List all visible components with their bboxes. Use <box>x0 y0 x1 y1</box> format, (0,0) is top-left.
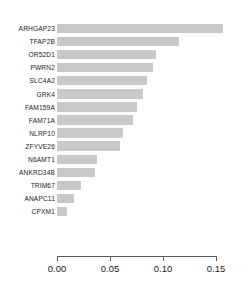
bar-row: FAM71A <box>0 114 241 127</box>
bar-category-label: ARHGAP23 <box>19 22 55 35</box>
bar-value-rect <box>57 63 153 73</box>
bar-value-rect <box>57 128 123 138</box>
bar-value-rect <box>57 50 156 60</box>
bar-row: GRK4 <box>0 88 241 101</box>
bar-category-label: GRK4 <box>36 88 55 101</box>
bar-category-label: TFAP2B <box>30 35 55 48</box>
plot-area: ARHGAP23 TFAP2B OR52D1 PWRN2 SLC4A2 GRK4… <box>0 0 241 252</box>
bar-category-label: FAM159A <box>25 101 55 114</box>
bar-value-rect <box>57 76 147 86</box>
bar-value-rect <box>57 168 95 178</box>
x-tick-mark <box>57 256 58 261</box>
x-tick-mark <box>110 256 111 261</box>
bar-category-label: ANAPC11 <box>24 192 55 205</box>
bar-row: TRIM67 <box>0 179 241 192</box>
bar-row: PWRN2 <box>0 61 241 74</box>
x-tick-mark <box>216 256 217 261</box>
bar-row: ZFYVE26 <box>0 140 241 153</box>
bar-category-label: ZFYVE26 <box>25 140 55 153</box>
bar-chart: ARHGAP23 TFAP2B OR52D1 PWRN2 SLC4A2 GRK4… <box>0 0 241 293</box>
bar-category-label: NLRP10 <box>29 127 55 140</box>
bar-value-rect <box>57 141 120 151</box>
bar-row: ANKRD34B <box>0 166 241 179</box>
bar-row: ARHGAP23 <box>0 22 241 35</box>
bar-row: NLRP10 <box>0 127 241 140</box>
bar-row: SLC4A2 <box>0 74 241 87</box>
bar-category-label: FAM71A <box>29 114 55 127</box>
bar-value-rect <box>57 181 81 191</box>
x-tick-label: 0.00 <box>48 263 67 274</box>
x-tick-mark <box>163 256 164 261</box>
bar-value-rect <box>57 115 133 125</box>
bar-category-label: SLC4A2 <box>30 74 55 87</box>
bar-value-rect <box>57 207 67 217</box>
bar-row: FAM159A <box>0 101 241 114</box>
bar-category-label: CPXM1 <box>32 205 55 218</box>
bar-value-rect <box>57 155 97 165</box>
bar-row: ANAPC11 <box>0 192 241 205</box>
bar-row: TFAP2B <box>0 35 241 48</box>
x-axis: 0.00 0.05 0.10 0.15 <box>0 252 241 293</box>
bar-category-label: PWRN2 <box>30 61 55 74</box>
x-axis-line <box>57 256 217 257</box>
bar-category-label: OR52D1 <box>28 48 55 61</box>
x-tick-label: 0.15 <box>207 263 226 274</box>
bar-row: N6AMT1 <box>0 153 241 166</box>
bar-value-rect <box>57 37 179 47</box>
x-tick-label: 0.10 <box>154 263 173 274</box>
bar-row: CPXM1 <box>0 205 241 218</box>
x-tick-label: 0.05 <box>101 263 120 274</box>
bar-value-rect <box>57 24 223 34</box>
bar-row: OR52D1 <box>0 48 241 61</box>
bar-category-label: N6AMT1 <box>28 153 55 166</box>
bar-value-rect <box>57 102 137 112</box>
bar-category-label: TRIM67 <box>31 179 55 192</box>
bar-category-label: ANKRD34B <box>19 166 55 179</box>
bar-value-rect <box>57 194 74 204</box>
bar-value-rect <box>57 89 143 99</box>
